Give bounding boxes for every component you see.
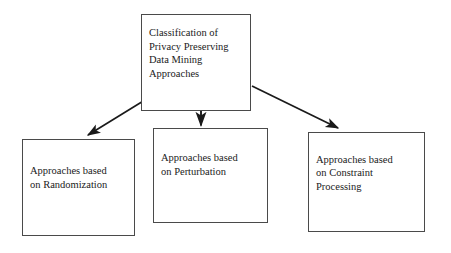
node-approaches-randomization[interactable]: Approaches based on Randomization	[22, 139, 135, 236]
node-perturbation-label: Approaches based on Perturbation	[154, 151, 267, 200]
edge-root-to-randomization	[88, 102, 143, 136]
node-classification-root[interactable]: Classification of Privacy Preserving Dat…	[141, 14, 251, 111]
diagram-canvas: Classification of Privacy Preserving Dat…	[0, 0, 451, 253]
node-approaches-constraint-processing[interactable]: Approaches based on Constraint Processin…	[308, 132, 425, 232]
edge-root-to-constraint	[252, 86, 338, 128]
node-root-label: Classification of Privacy Preserving Dat…	[142, 15, 250, 80]
node-randomization-label: Approaches based on Randomization	[23, 164, 134, 211]
node-constraint-label: Approaches based on Constraint Processin…	[309, 153, 424, 212]
node-approaches-perturbation[interactable]: Approaches based on Perturbation	[153, 128, 268, 223]
